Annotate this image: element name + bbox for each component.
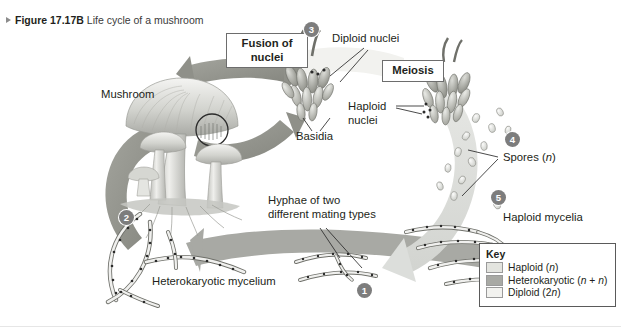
step-marker-1: 1 bbox=[357, 283, 372, 298]
key-label-diploid: Diploid (2n) bbox=[508, 287, 561, 298]
figure-container: Figure 17.17B Life cycle of a mushroom bbox=[0, 0, 621, 327]
step-marker-2: 2 bbox=[119, 210, 134, 225]
key-legend: Key Haploid (n) Heterokaryotic (n + n) D… bbox=[479, 243, 616, 307]
label-spores: Spores (n) bbox=[503, 151, 556, 165]
label-mushroom: Mushroom bbox=[101, 88, 154, 102]
label-haploid-mycelia: Haploid mycelia bbox=[503, 211, 583, 225]
label-basidia: Basidia bbox=[296, 130, 333, 144]
label-diploid-nuclei: Diploid nuclei bbox=[332, 32, 399, 46]
step-marker-3: 3 bbox=[304, 22, 319, 37]
mating-hyphae-fusion bbox=[296, 253, 376, 280]
label-haploid-nuclei: Haploid nuclei bbox=[348, 100, 386, 127]
key-swatch-diploid bbox=[486, 287, 503, 298]
step-marker-5: 5 bbox=[491, 190, 506, 205]
key-label-haploid: Haploid (n) bbox=[508, 262, 558, 273]
label-hyphae-mating-types: Hyphae of two different mating types bbox=[268, 194, 376, 221]
key-title: Key bbox=[486, 248, 609, 260]
key-item-haploid: Haploid (n) bbox=[486, 262, 609, 273]
key-item-heterokaryotic: Heterokaryotic (n + n) bbox=[486, 275, 609, 286]
label-fusion-of-nuclei: Fusion of nuclei bbox=[226, 33, 308, 68]
label-meiosis: Meiosis bbox=[382, 60, 444, 82]
key-label-heterokaryotic: Heterokaryotic (n + n) bbox=[508, 275, 607, 286]
label-heterokaryotic-mycelium: Heterokaryotic mycelium bbox=[152, 275, 276, 289]
key-item-diploid: Diploid (2n) bbox=[486, 287, 609, 298]
key-swatch-heterokaryotic bbox=[486, 275, 503, 286]
step-marker-4: 4 bbox=[505, 132, 520, 147]
key-swatch-haploid bbox=[486, 262, 503, 273]
